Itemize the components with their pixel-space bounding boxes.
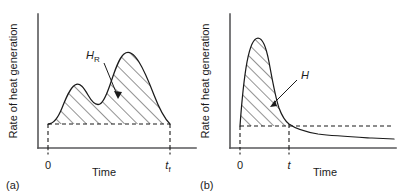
panel-b-leader bbox=[272, 80, 297, 105]
panel-b-xtick-label-0: 0 bbox=[237, 159, 243, 171]
figure-root: HR 0 tf Time Rate of heat generation (a) bbox=[0, 0, 403, 194]
panel-b-curve-label: H bbox=[301, 69, 309, 81]
panel-a-label: (a) bbox=[6, 179, 19, 191]
panel-b-xtick-label-t: t bbox=[287, 159, 291, 171]
figure-svg: HR 0 tf Time Rate of heat generation (a) bbox=[0, 0, 403, 194]
panel-a: HR 0 tf Time Rate of heat generation (a) bbox=[6, 14, 196, 191]
panel-a-x-axis-title: Time bbox=[92, 166, 116, 178]
panel-a-curve-label: HR bbox=[86, 49, 100, 64]
panel-a-xtick-label-tf: tf bbox=[165, 159, 171, 174]
panel-b-label: (b) bbox=[200, 179, 213, 191]
panel-b-y-axis-title: Rate of heat generation bbox=[199, 24, 211, 139]
panel-b: H 0 t Time Rate of heat generation (b) bbox=[199, 14, 396, 191]
panel-a-xtick-label-0: 0 bbox=[45, 159, 51, 171]
panel-b-x-axis-title: Time bbox=[313, 166, 337, 178]
panel-b-hatched-region bbox=[232, 30, 302, 130]
panel-a-y-axis-title: Rate of heat generation bbox=[7, 24, 19, 139]
